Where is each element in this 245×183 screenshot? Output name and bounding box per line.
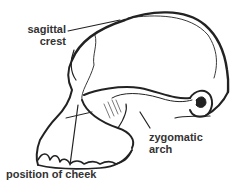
sagittal-crest-label: sagittal crest <box>24 23 66 47</box>
zygomatic-arch-label-line2: arch <box>149 143 203 155</box>
sagittal-crest-label-line1: sagittal <box>24 23 66 35</box>
zygomatic-arch-label: zygomatic arch <box>149 131 203 155</box>
skull-diagram: sagittal crest zygomatic arch position o… <box>0 0 245 183</box>
sagittal-crest-label-line2: crest <box>24 35 66 47</box>
zygomatic-arch-label-line1: zygomatic <box>149 131 203 143</box>
position-of-cheek-label: position of cheek <box>6 168 96 180</box>
